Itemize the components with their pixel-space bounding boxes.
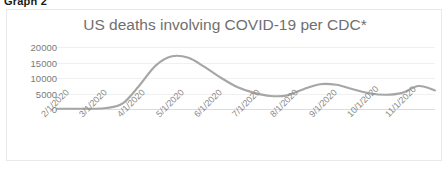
y-axis-tick-label: 10000 — [31, 73, 57, 84]
chart-frame: US deaths involving COVID-19 per CDC* 05… — [6, 9, 442, 161]
figure-container: Graph 2 US deaths involving COVID-19 per… — [0, 0, 448, 170]
y-axis-tick-label: 15000 — [31, 57, 57, 68]
chart-title: US deaths involving COVID-19 per CDC* — [7, 16, 443, 34]
figure-caption: Graph 2 — [4, 0, 47, 7]
y-axis-tick-label: 20000 — [31, 42, 57, 53]
x-axis-labels: 2/1/20203/1/20204/1/20205/1/20206/1/2020… — [57, 112, 435, 170]
